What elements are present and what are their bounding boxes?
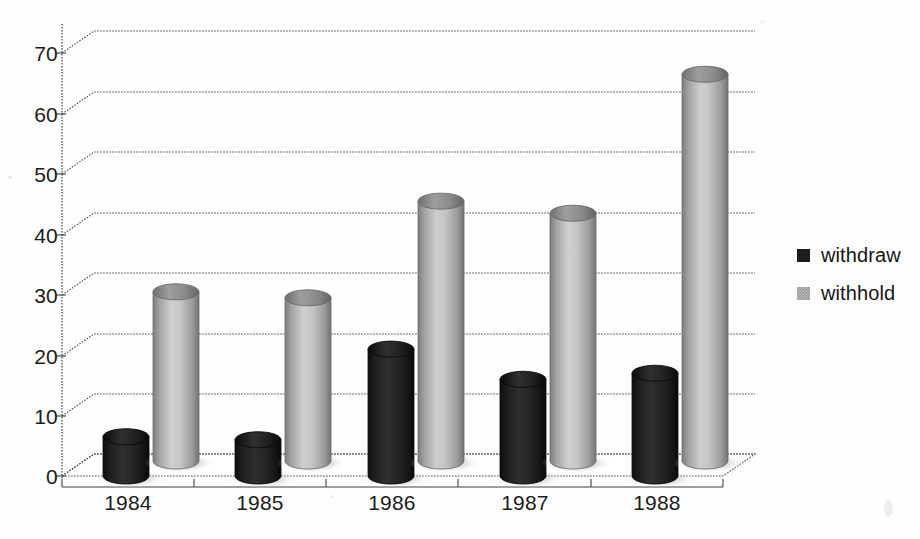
chart-legend: withdraw withhold <box>797 236 915 312</box>
x-tick-label-1984: 1984 <box>83 492 173 513</box>
legend-swatch-light-hatched-square-icon <box>797 287 810 300</box>
chart-screenshot: 70 60 50 40 30 20 10 0 1984 1985 1986 19… <box>0 0 920 539</box>
chart-canvas <box>0 0 780 539</box>
bar-withhold-1986 <box>409 193 481 473</box>
legend-swatch-dark-square-icon <box>797 249 810 262</box>
legend-label-withdraw: withdraw <box>821 244 901 267</box>
y-axis-labels: 70 60 50 40 30 20 10 0 <box>12 0 58 539</box>
legend-item-withdraw: withdraw <box>797 236 915 274</box>
bars-layer <box>94 66 745 488</box>
bar-withhold-1988 <box>673 66 745 473</box>
x-tick-label-1988: 1988 <box>612 492 702 513</box>
y-tick-label: 40 <box>12 225 58 246</box>
y-tick-label: 30 <box>12 285 58 306</box>
x-tick-label-1987: 1987 <box>480 492 570 513</box>
legend-label-withhold: withhold <box>821 282 895 305</box>
scan-speck <box>884 500 893 517</box>
y-tick-label: 60 <box>12 104 58 125</box>
y-tick-label: 0 <box>12 466 58 487</box>
x-tick-label-1985: 1985 <box>215 492 305 513</box>
y-tick-label: 20 <box>12 346 58 367</box>
x-tick-label-1986: 1986 <box>347 492 437 513</box>
x-axis-labels: 1984 1985 1986 1987 1988 <box>0 492 780 526</box>
y-tick-label: 50 <box>12 164 58 185</box>
bar-withhold-1987 <box>541 205 613 473</box>
y-tick-label: 70 <box>12 43 58 64</box>
bar-withhold-1984 <box>144 284 216 473</box>
bar-chart: 70 60 50 40 30 20 10 0 1984 1985 1986 19… <box>0 0 780 539</box>
bar-withhold-1985 <box>276 290 348 473</box>
legend-item-withhold: withhold <box>797 274 915 312</box>
y-tick-label: 10 <box>12 406 58 427</box>
